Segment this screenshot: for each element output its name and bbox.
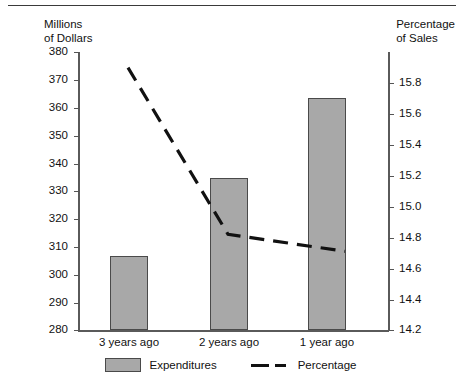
right-tick-mark (389, 269, 394, 270)
left-tick-label: 340 (34, 158, 68, 170)
left-tick-mark (74, 191, 79, 192)
left-tick-label: 370 (34, 74, 68, 86)
right-tick-mark (389, 83, 394, 84)
right-tick-mark (389, 330, 394, 331)
right-axis-line (388, 52, 390, 331)
right-tick-mark (389, 114, 394, 115)
x-axis-line (78, 330, 389, 332)
right-tick-mark (389, 207, 394, 208)
left-tick-label: 280 (34, 324, 68, 336)
left-tick-mark (74, 303, 79, 304)
left-tick-label: 300 (34, 269, 68, 281)
bar (210, 178, 248, 330)
right-tick-label: 14.2 (399, 324, 421, 336)
left-tick-label: 360 (34, 102, 68, 114)
top-divider-rule (8, 5, 456, 6)
x-axis-label: 3 years ago (79, 336, 179, 349)
bar (308, 98, 346, 330)
left-tick-label: 290 (34, 297, 68, 309)
right-tick-label: 15.4 (399, 139, 421, 151)
left-tick-mark (74, 219, 79, 220)
right-tick-label: 15.2 (399, 170, 421, 182)
dashed-line-swatch-icon (251, 358, 289, 372)
left-tick-mark (74, 80, 79, 81)
right-tick-mark (389, 238, 394, 239)
bar-swatch-icon (105, 358, 141, 372)
left-tick-label: 380 (34, 46, 68, 58)
right-tick-label: 14.4 (399, 294, 421, 306)
right-tick-label: 15.6 (399, 108, 421, 120)
right-tick-label: 15.8 (399, 77, 421, 89)
left-tick-label: 310 (34, 241, 68, 253)
left-tick-mark (74, 247, 79, 248)
left-axis-title: Millions of Dollars (44, 18, 93, 45)
left-tick-label: 330 (34, 185, 68, 197)
right-tick-label: 14.6 (399, 263, 421, 275)
left-tick-mark (74, 136, 79, 137)
right-tick-mark (389, 145, 394, 146)
right-tick-mark (389, 300, 394, 301)
right-tick-label: 14.8 (399, 232, 421, 244)
legend-item-percentage: Percentage (251, 358, 357, 372)
bar (110, 256, 148, 330)
x-axis-label: 2 years ago (179, 336, 279, 349)
left-tick-mark (74, 164, 79, 165)
x-axis-label: 1 year ago (277, 336, 377, 349)
right-axis-title: Percentage of Sales (396, 18, 455, 45)
chart-legend: Expenditures Percentage (0, 358, 461, 372)
right-tick-mark (389, 176, 394, 177)
left-tick-label: 350 (34, 130, 68, 142)
chart-figure: Millions of Dollars Percentage of Sales … (0, 0, 461, 384)
legend-label-expenditures: Expenditures (150, 359, 217, 372)
left-tick-mark (74, 275, 79, 276)
left-tick-label: 320 (34, 213, 68, 225)
left-tick-mark (74, 330, 79, 331)
legend-item-expenditures: Expenditures (105, 358, 217, 372)
left-tick-mark (74, 108, 79, 109)
left-tick-mark (74, 52, 79, 53)
right-tick-label: 15.0 (399, 201, 421, 213)
legend-label-percentage: Percentage (298, 359, 357, 372)
